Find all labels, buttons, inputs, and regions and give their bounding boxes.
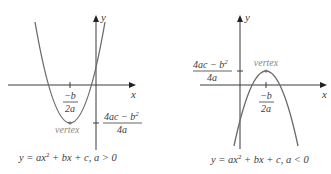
- right-vertex-label: vertex: [254, 57, 279, 68]
- right-graph: y x vertex −b 2a 4ac − b2 4a y = ax2 + b…: [193, 11, 327, 165]
- right-y-tick-numerator: 4ac − b2: [193, 58, 228, 70]
- right-caption: y = ax2 + bx + c, a < 0: [210, 153, 309, 165]
- left-x-label: x: [130, 88, 136, 100]
- parabola-diagram: y x vertex −b 2a 4ac − b2 4a y = ax2 + b…: [0, 0, 331, 174]
- left-y-tick-denominator: 4a: [117, 124, 127, 135]
- left-caption: y = ax2 + bx + c, a > 0: [18, 151, 117, 163]
- left-y-tick-numerator: 4ac − b2: [104, 110, 139, 122]
- left-graph: y x vertex −b 2a 4ac − b2 4a y = ax2 + b…: [8, 11, 142, 163]
- right-y-tick-denominator: 4a: [207, 72, 217, 83]
- right-y-arrow-icon: [237, 15, 243, 22]
- left-y-label: y: [100, 11, 106, 23]
- left-x-tick-numerator: −b: [64, 90, 76, 101]
- right-x-label: x: [321, 88, 327, 100]
- right-vertex-point: [264, 69, 267, 72]
- left-vertex-label: vertex: [55, 124, 80, 135]
- right-x-tick-denominator: 2a: [261, 103, 271, 114]
- left-y-arrow-icon: [93, 15, 99, 22]
- right-y-label: y: [244, 11, 250, 23]
- right-x-tick-numerator: −b: [260, 90, 272, 101]
- left-x-tick-denominator: 2a: [65, 103, 75, 114]
